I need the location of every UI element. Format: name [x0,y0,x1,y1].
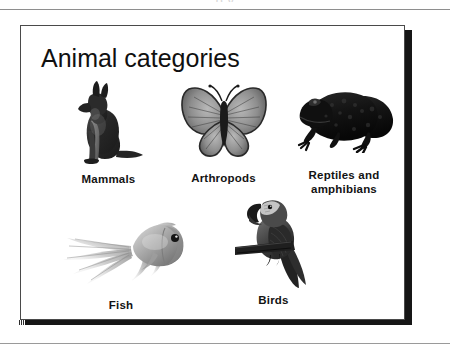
category-caption-fish: Fish [46,298,196,312]
category-item-fish: Fish [46,206,196,312]
macaw-parrot-photo [235,191,313,291]
category-caption-mammals: Mammals [51,172,166,186]
category-item-arthropods: Arthropods [161,81,286,185]
category-item-birds: Birds [206,191,341,307]
category-item-mammals: Mammals [51,81,166,186]
page-rule-top [0,9,450,10]
page-top-ghost-text: p y [0,0,450,2]
goldfish-photo [57,206,185,294]
german-shepherd-dog-photo [71,81,147,166]
slide-title: Animal categories [41,44,240,73]
category-caption-arthropods: Arthropods [161,171,286,185]
category-caption-birds: Birds [206,293,341,307]
page-rule-bottom [0,343,450,344]
slide-frame: Animal categories [20,25,405,320]
slide-corner-artifact [19,320,26,325]
category-item-reptiles-amphibians: Reptiles and amphibians [284,81,404,196]
frog-photo [292,81,396,153]
butterfly-photo [180,81,268,161]
